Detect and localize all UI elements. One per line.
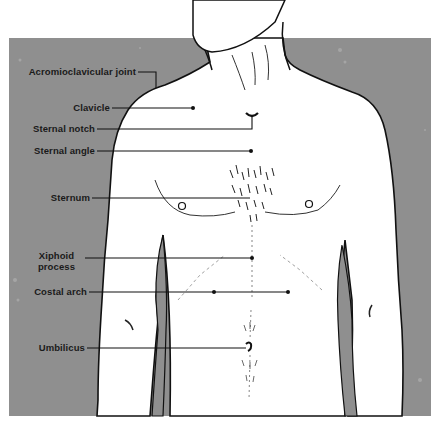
- label-sternal-notch: Sternal notch: [20, 123, 95, 134]
- label-sternal-angle: Sternal angle: [20, 145, 95, 156]
- label-costal-arch: Costal arch: [20, 286, 87, 297]
- label-acromioclavicular-joint: Acromioclavicular joint: [26, 66, 136, 77]
- torso-silhouette: [97, 38, 403, 416]
- label-sternum: Sternum: [30, 192, 90, 203]
- torso-illustration: [0, 0, 440, 424]
- label-xiphoid-process: Xiphoid process: [30, 250, 83, 272]
- label-clavicle: Clavicle: [40, 102, 110, 113]
- label-umbilicus: Umbilicus: [25, 342, 85, 353]
- label-xiphoid-line2: process: [30, 261, 83, 272]
- anatomy-figure: Acromioclavicular joint Clavicle Sternal…: [0, 0, 440, 424]
- label-xiphoid-line1: Xiphoid: [30, 250, 83, 261]
